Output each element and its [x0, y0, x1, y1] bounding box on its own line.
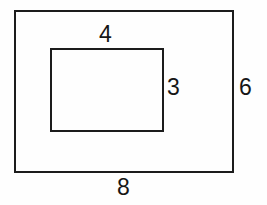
- inner-rectangle-shape: [50, 48, 164, 132]
- inner-rectangle-height-label: 3: [167, 76, 180, 99]
- inner-rectangle-width-label: 4: [99, 23, 112, 46]
- outer-rectangle-height-label: 6: [239, 76, 252, 99]
- diagram-canvas: 4 3 6 8: [0, 0, 267, 205]
- outer-rectangle-width-label: 8: [117, 176, 130, 199]
